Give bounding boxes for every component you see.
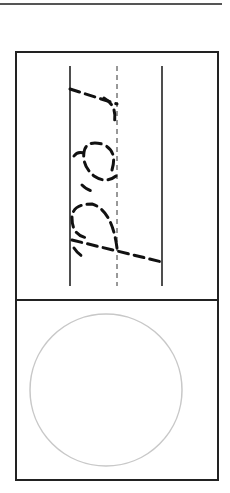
trace-letter-e (74, 143, 116, 180)
trace-letter-r (70, 89, 117, 124)
drawing-circle (30, 314, 182, 466)
tracing-area (0, 0, 230, 493)
